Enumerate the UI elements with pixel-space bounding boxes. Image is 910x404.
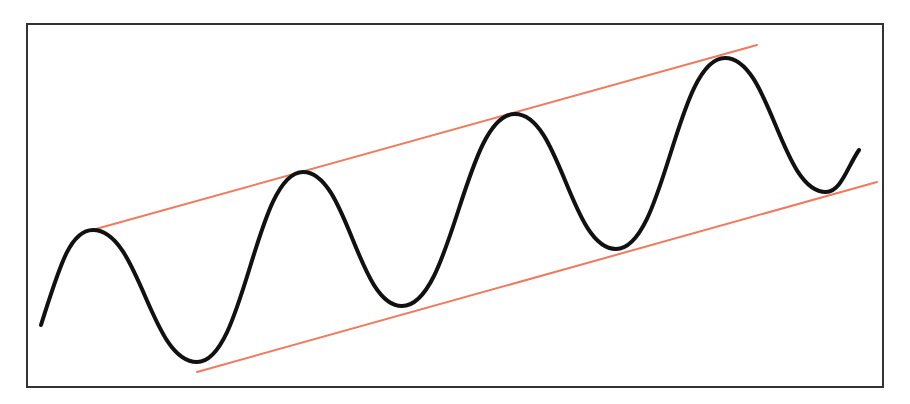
channel-diagram	[0, 0, 910, 404]
